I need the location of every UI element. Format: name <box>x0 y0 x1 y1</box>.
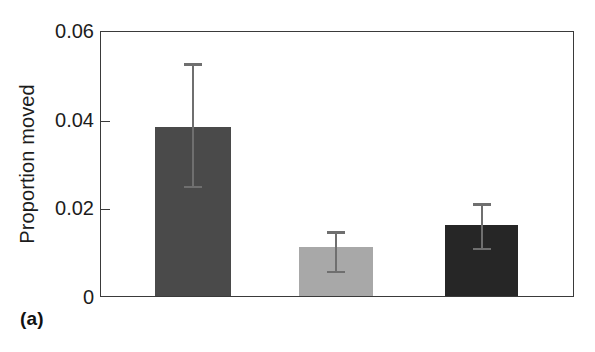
error-bar-cap-top <box>184 63 202 66</box>
y-tick-label-0.06: 0.06 <box>55 21 94 41</box>
bars-layer <box>101 32 573 296</box>
error-bar-stem <box>192 63 194 188</box>
error-bar-2 <box>299 231 373 273</box>
error-bar-cap-bottom <box>327 271 345 274</box>
error-bar-cap-top <box>327 231 345 234</box>
error-bar-cap-top <box>473 203 491 206</box>
plot-frame <box>100 31 574 297</box>
error-bar-stem <box>335 231 337 273</box>
error-bar-cap-bottom <box>184 186 202 189</box>
panel-label: (a) <box>20 308 44 330</box>
y-tick-label-0.04: 0.04 <box>55 110 94 130</box>
error-bar-3 <box>445 203 518 250</box>
error-bar-1 <box>155 63 231 188</box>
y-axis-title: Proportion moved <box>10 31 44 297</box>
error-bar-cap-bottom <box>473 248 491 251</box>
figure-panel-a: Proportion moved 00.020.040.06 (a) <box>0 0 595 352</box>
error-bar-stem <box>481 203 483 250</box>
y-axis-tick-labels: 00.020.040.06 <box>40 0 94 352</box>
y-tick-label-0: 0 <box>83 287 94 307</box>
y-tick-label-0.02: 0.02 <box>55 198 94 218</box>
